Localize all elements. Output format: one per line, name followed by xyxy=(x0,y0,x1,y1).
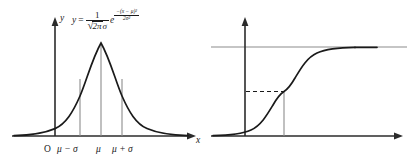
pdf-formula-exponent-denominator: 2σ² xyxy=(114,16,139,22)
pdf-tick-mu-plus-sigma: μ + σ xyxy=(112,145,133,155)
pdf-formula-lhs: y xyxy=(72,16,76,26)
pdf-y-axis-label: y xyxy=(60,14,64,24)
pdf-drop-lines xyxy=(80,43,122,136)
statistics-figure: y = 1 √2πσ e −(x − μ)² 2σ² y x O μ − σ μ… xyxy=(0,0,415,167)
radical-icon: √ xyxy=(88,20,94,31)
pdf-formula-sigma: σ xyxy=(103,21,107,31)
pdf-tick-mu-minus-sigma: μ − σ xyxy=(57,145,78,155)
pdf-tick-mu: μ xyxy=(96,145,101,155)
pdf-formula-exponent-fraction: −(x − μ)² 2σ² xyxy=(114,9,139,21)
pdf-formula-fraction: 1 √2πσ xyxy=(86,11,109,31)
pdf-formula: y = 1 √2πσ e −(x − μ)² 2σ² xyxy=(72,11,139,31)
pdf-formula-denominator: √2πσ xyxy=(86,21,109,31)
pdf-origin-label: O xyxy=(44,145,51,155)
cdf-chart-svg xyxy=(207,0,415,167)
cdf-y-axis xyxy=(242,17,249,136)
pdf-x-axis-label: x xyxy=(196,136,200,146)
pdf-formula-sqrt: √2π xyxy=(88,21,103,31)
pdf-y-axis xyxy=(52,17,59,136)
pdf-formula-equals: = xyxy=(78,16,83,26)
pdf-chart-panel: y = 1 √2πσ e −(x − μ)² 2σ² y x O μ − σ μ… xyxy=(0,0,207,167)
cdf-chart-panel: y x O μ 1 1 2 y=F(x) xyxy=(207,0,415,167)
pdf-formula-exponent: −(x − μ)² 2σ² xyxy=(114,9,139,21)
